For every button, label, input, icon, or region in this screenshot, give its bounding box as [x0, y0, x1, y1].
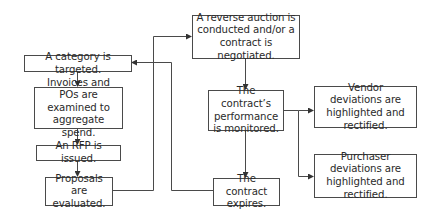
arrow-monitor-to-purchaser: [299, 111, 314, 177]
arrow-expires-to-category: [132, 63, 213, 191]
node-monitor: The contract’s performance is monitored.: [208, 90, 284, 131]
node-auction: A reverse auction is conducted and/or a …: [192, 15, 300, 59]
node-label: The contract expires.: [217, 173, 276, 211]
node-category: A category is targeted.: [24, 55, 132, 72]
node-label: An RFP is issued.: [39, 140, 118, 165]
node-label: Invoices and POs are examined to aggrega…: [41, 77, 116, 140]
node-label: Proposals are evaluated.: [52, 173, 106, 211]
node-invoices: Invoices and POs are examined to aggrega…: [34, 87, 123, 129]
node-label: A reverse auction is conducted and/or a …: [194, 12, 298, 62]
node-label: The contract’s performance is monitored.: [213, 85, 279, 135]
node-rfp: An RFP is issued.: [36, 145, 121, 161]
node-proposals: Proposals are evaluated.: [45, 177, 113, 206]
node-label: A category is targeted.: [27, 51, 129, 76]
node-label: Vendor deviations are highlighted and re…: [323, 82, 408, 132]
node-expires: The contract expires.: [213, 178, 280, 206]
node-vendor: Vendor deviations are highlighted and re…: [314, 86, 417, 128]
node-label: Purchaser deviations are highlighted and…: [316, 151, 415, 201]
node-purchaser: Purchaser deviations are highlighted and…: [314, 154, 417, 198]
